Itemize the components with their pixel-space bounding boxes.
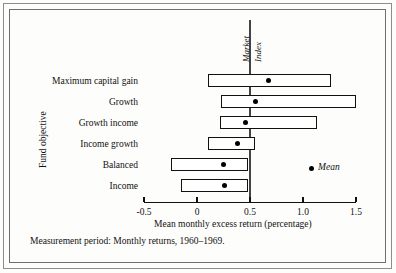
category-label: Maximum capital gain — [44, 76, 138, 86]
x-axis-tick-label: 1.5 — [336, 207, 376, 217]
x-axis-title: Mean monthly excess return (percentage) — [154, 219, 312, 229]
market-index-label-index: Index — [253, 42, 263, 62]
mean-marker — [235, 141, 240, 146]
x-axis-tick-label: -0.5 — [124, 207, 164, 217]
figure-caption: Measurement period: Monthly returns, 196… — [30, 236, 225, 246]
chart-plot-area: Fund objective Market Index Mean monthly… — [0, 0, 396, 273]
range-bar — [220, 116, 316, 129]
category-label: Income — [44, 181, 138, 191]
x-axis-tick-label: 0 — [177, 207, 217, 217]
range-bar — [181, 179, 248, 192]
mean-marker — [253, 99, 258, 104]
category-label: Growth — [44, 97, 138, 107]
market-index-label-market: Market — [241, 36, 251, 62]
range-bar — [171, 158, 248, 171]
range-bar — [208, 137, 256, 150]
x-axis-tick — [143, 197, 144, 202]
figure-panel: Fund objective Market Index Mean monthly… — [0, 0, 396, 273]
x-axis-line — [144, 202, 356, 203]
x-axis-tick-label: 1.0 — [283, 207, 323, 217]
category-label: Balanced — [44, 160, 138, 170]
mean-marker — [266, 78, 271, 83]
legend-mean-label: Mean — [318, 162, 340, 172]
x-axis-tick — [302, 197, 303, 202]
x-axis-tick — [355, 197, 356, 202]
category-label: Income growth — [44, 139, 138, 149]
x-axis-tick — [196, 197, 197, 202]
mean-marker — [221, 162, 226, 167]
legend-mean-marker — [309, 166, 314, 171]
range-bar — [221, 95, 356, 108]
x-axis-tick — [249, 197, 250, 202]
category-label: Growth income — [44, 118, 138, 128]
x-axis-tick-label: 0.5 — [230, 207, 270, 217]
